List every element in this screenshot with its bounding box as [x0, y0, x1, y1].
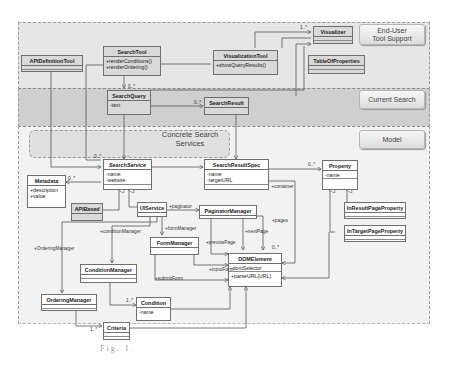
class-criteria: Criteria: [103, 322, 130, 340]
role-previouspage: +previosPage: [206, 240, 235, 245]
class-condition: Condition -name: [136, 297, 171, 321]
class-tableofproperties: TableOfProperties: [308, 55, 365, 74]
class-formmanager: FormManager: [150, 237, 199, 255]
class-apidefinitiontool: APIDefinitionTool: [21, 55, 83, 72]
class-searchresultspec: SearchResultSpec -name -targetURL: [204, 159, 269, 190]
role-container: +container: [271, 184, 294, 189]
role-formmanager: +formManager: [165, 226, 196, 231]
figure-caption: Fig. 1.: [100, 344, 135, 353]
class-searchquery: SearchQuery -text: [107, 90, 151, 115]
role-inputform: +inputForm: [209, 267, 233, 272]
class-conditionmanager: ConditionManager: [80, 264, 137, 283]
mult-searchresult: 0..*: [194, 100, 201, 105]
mult-criteria: 1..*: [90, 327, 97, 332]
role-pages: +pages: [272, 218, 288, 223]
class-inresultpageproperty: InResultPageProperty: [344, 202, 406, 219]
role-paginator: +paginator: [169, 204, 192, 209]
mult-visualizer: 1..*: [300, 25, 307, 30]
role-conditionmanager: +conditionManager: [100, 229, 141, 234]
role-orderingmanager: +OrderingManager: [34, 246, 74, 251]
class-searchtool: SearchTool +renderConditions() +renderOr…: [103, 46, 161, 76]
class-visualizationtool: VisualizationTool +showQueryResults(): [213, 50, 278, 75]
mult-searchservice: 0..*: [94, 154, 101, 159]
mult-property: 0..*: [308, 162, 315, 167]
class-searchservice: SearchService -name -website: [103, 159, 152, 190]
class-metadata: Metadata +description +value: [27, 175, 66, 208]
mult-domelement: 0..*: [272, 245, 279, 250]
class-searchresult: SearchResult: [204, 97, 249, 115]
class-paginatormanager: PaginatorManager: [199, 205, 257, 219]
class-domelement: DOMElement -domSelector +parseURL(URL): [228, 253, 282, 287]
mult-searchquery: 0..*: [128, 84, 135, 89]
role-nextpage: +nextPage: [245, 229, 268, 234]
class-property: Property -name: [322, 160, 358, 190]
uml-diagram: Concrete Search Services End-User Tool S…: [0, 0, 449, 365]
mult-condition: 1..*: [126, 298, 133, 303]
class-intargetpageproperty: InTargetPageProperty: [344, 225, 406, 242]
role-submitform: +submitForm: [155, 276, 183, 281]
class-uiservice: UIService: [137, 202, 167, 217]
class-apibased: APIBased: [71, 203, 103, 221]
class-orderingmanager: OrderingManager: [41, 294, 97, 311]
mult-metadata: 0..*: [68, 176, 75, 181]
class-visualizer: Visualizer: [313, 26, 353, 44]
